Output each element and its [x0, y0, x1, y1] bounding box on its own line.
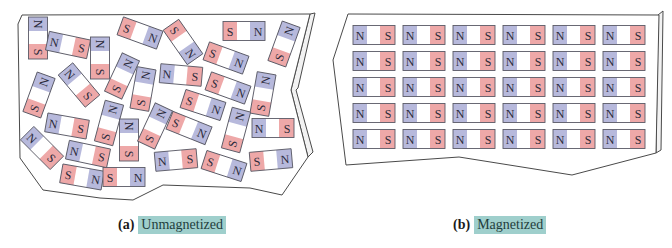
pole-label: N [356, 107, 365, 121]
pole-label: S [435, 133, 442, 147]
magnet: NS [603, 52, 645, 71]
magnet: NS [91, 37, 110, 79]
pole-label: S [485, 29, 492, 43]
magnet: NS [29, 17, 48, 59]
pole-label: S [385, 133, 392, 147]
pole-label: S [535, 81, 542, 95]
pole-label: S [585, 107, 592, 121]
magnet: NS [159, 64, 202, 87]
pole-label: N [134, 171, 143, 185]
pole-label: N [556, 29, 565, 43]
pole-label: N [456, 107, 465, 121]
pole-label: N [506, 133, 515, 147]
magnet: NS [553, 130, 595, 149]
pole-label: S [585, 133, 592, 147]
pole-label: N [556, 107, 565, 121]
pole-label: S [585, 55, 592, 69]
magnet: NS [353, 26, 395, 45]
magnet: NS [603, 26, 645, 45]
pole-label: N [406, 133, 415, 147]
pole-label: N [456, 55, 465, 69]
magnet: NS [503, 26, 545, 45]
magnet: NS [453, 52, 495, 71]
caption-b: (b) Magnetized [453, 216, 546, 234]
pole-label: N [506, 107, 515, 121]
pole-label: S [107, 171, 114, 185]
pole-label: S [485, 55, 492, 69]
magnet: NS [503, 78, 545, 97]
pole-label: S [253, 154, 261, 169]
pole-label: S [385, 55, 392, 69]
pole-label: S [535, 29, 542, 43]
magnet: NS [553, 26, 595, 45]
pole-label: S [635, 107, 642, 121]
pole-label: N [606, 133, 615, 147]
figure-canvas: NSNSNSSNSNSNSNSNSNNSSNSNNSSNSNNSSNNSSNSN… [0, 0, 672, 210]
pole-label: S [385, 81, 392, 95]
pole-label: S [635, 55, 642, 69]
caption-b-tag: (b) [453, 217, 470, 233]
magnet: NS [403, 26, 445, 45]
pole-label: N [506, 81, 515, 95]
magnet: NS [403, 52, 445, 71]
pole-label: N [406, 29, 415, 43]
magnet: SN [103, 168, 145, 187]
magnet: NS [154, 149, 197, 172]
magnet: NS [353, 104, 395, 123]
pole-label: N [606, 55, 615, 69]
pole-label: N [122, 122, 136, 131]
pole-label: S [385, 107, 392, 121]
pole-label: S [635, 81, 642, 95]
magnet: NS [603, 78, 645, 97]
pole-label: S [31, 49, 45, 56]
magnet: NS [403, 78, 445, 97]
magnet: NS [453, 104, 495, 123]
caption-b-label: Magnetized [474, 216, 546, 234]
pole-label: S [535, 55, 542, 69]
pole-label: S [93, 69, 107, 76]
pole-label: N [456, 133, 465, 147]
pole-label: N [406, 81, 415, 95]
pole-label: S [485, 133, 492, 147]
magnet: NS [403, 130, 445, 149]
pole-label: S [284, 122, 291, 136]
magnet: NS [353, 130, 395, 149]
pole-label: N [356, 81, 365, 95]
caption-a: (a) Unmagnetized [118, 216, 226, 234]
magnet: NS [503, 52, 545, 71]
magnet: NS [353, 78, 395, 97]
caption-a-label: Unmagnetized [138, 216, 226, 234]
pole-label: S [585, 29, 592, 43]
pole-label: N [356, 55, 365, 69]
pole-label: N [506, 55, 515, 69]
pole-label: N [93, 40, 107, 49]
pole-label: N [406, 55, 415, 69]
magnet: NS [252, 119, 294, 138]
pole-label: N [506, 29, 515, 43]
caption-a-tag: (a) [118, 217, 134, 233]
pole-label: N [406, 107, 415, 121]
pole-label: N [356, 29, 365, 43]
pole-label: S [191, 69, 199, 84]
pole-label: S [635, 133, 642, 147]
pole-label: S [535, 133, 542, 147]
pole-label: N [606, 81, 615, 95]
pole-label: N [254, 25, 263, 39]
magnet: NS [603, 130, 645, 149]
magnet: SN [249, 149, 292, 172]
pole-label: N [606, 29, 615, 43]
magnet: NS [453, 130, 495, 149]
panel-a: NSNSNSSNSNSNSNSNSNNSSNSNNSSNSNNSSNNSSNSN… [18, 13, 315, 200]
pole-label: S [485, 107, 492, 121]
pole-label: N [606, 107, 615, 121]
pole-label: S [635, 29, 642, 43]
panel-b: NSNSNSNSNSNSNSNSNSNSNSNSNSNSNSNSNSNSNSNS… [333, 11, 663, 175]
pole-label: N [556, 81, 565, 95]
pole-label: S [122, 151, 136, 158]
pole-label: S [535, 107, 542, 121]
pole-label: N [255, 122, 264, 136]
magnet: NS [553, 78, 595, 97]
magnet: NS [503, 104, 545, 123]
pole-label: N [456, 29, 465, 43]
magnet: NS [503, 130, 545, 149]
